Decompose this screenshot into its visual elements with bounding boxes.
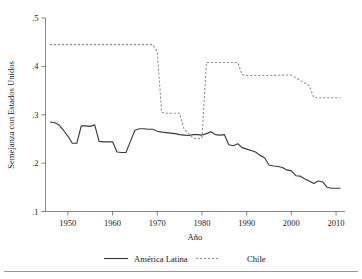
chart-legend: América Latina Chile <box>104 254 266 264</box>
y-tick-label: .4 <box>32 61 39 71</box>
legend-label-chile: Chile <box>247 254 266 264</box>
x-tick-label: 1990 <box>238 218 255 228</box>
y-tick-label: .3 <box>32 110 38 120</box>
line-chart-svg: .1.2.3.4.5 1950196019701980199020002010 … <box>0 0 362 279</box>
x-tick-label: 1950 <box>59 218 76 228</box>
x-tick-label: 1970 <box>149 218 166 228</box>
y-tick-label: .5 <box>32 13 38 23</box>
x-axis-title: Año <box>188 232 203 242</box>
x-tick-label: 2000 <box>283 218 300 228</box>
x-tick-label: 1980 <box>193 218 210 228</box>
y-axis-title: Semejanza con Estados Unidos <box>6 61 16 169</box>
y-axis-ticks: .1.2.3.4.5 <box>32 13 45 217</box>
legend-label-america-latina: América Latina <box>134 254 188 264</box>
x-tick-label: 2010 <box>328 218 345 228</box>
x-tick-label: 1960 <box>104 218 121 228</box>
y-tick-label: .1 <box>32 207 38 217</box>
x-axis-ticks: 1950196019701980199020002010 <box>59 212 344 228</box>
series-line-america-latina <box>50 122 341 188</box>
footer-divider <box>4 271 358 272</box>
y-tick-label: .2 <box>32 158 38 168</box>
chart-figure: .1.2.3.4.5 1950196019701980199020002010 … <box>0 0 362 279</box>
